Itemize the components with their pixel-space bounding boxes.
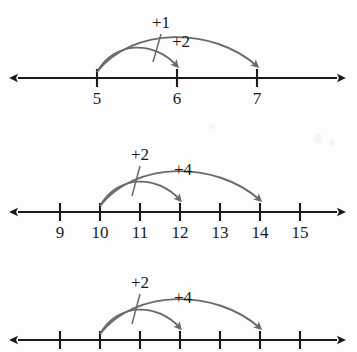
jump-label: +4	[174, 161, 192, 178]
tick-label: 12	[165, 224, 195, 241]
tick-label: 11	[125, 224, 155, 241]
tick-label: 14	[245, 224, 275, 241]
tick-label: 9	[45, 224, 75, 241]
tick-label: 6	[162, 90, 192, 107]
tick-label: 10	[85, 224, 115, 241]
jump-label: +4	[174, 289, 192, 306]
tick-label: 13	[205, 224, 235, 241]
jump-label: +2	[131, 146, 149, 163]
tick-label: 5	[82, 90, 112, 107]
jump-label: +2	[131, 274, 149, 291]
number-line-figure: 567+1+29101112131415+2+4+2+4	[0, 0, 357, 352]
jump-label: +1	[152, 14, 170, 31]
tick-label: 7	[242, 90, 272, 107]
tick-label: 15	[285, 224, 315, 241]
jump-label: +2	[172, 33, 190, 50]
axes-layer	[18, 69, 337, 349]
